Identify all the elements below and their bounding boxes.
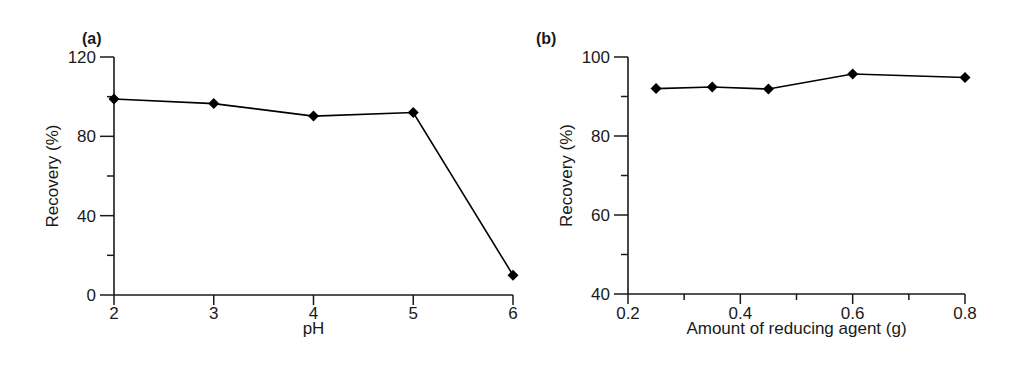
y-tick-label: 0 <box>87 286 96 305</box>
data-line <box>114 99 513 275</box>
chart-panel-b: (b)4060801000.20.40.60.8Amount of reduci… <box>536 30 977 338</box>
diamond-marker <box>707 82 718 93</box>
y-axis-title: Recovery (%) <box>43 125 62 228</box>
y-axis-title: Recovery (%) <box>557 124 576 227</box>
diamond-marker <box>208 98 219 109</box>
y-tick-label: 120 <box>68 48 96 67</box>
diamond-marker <box>651 83 662 94</box>
y-tick-label: 60 <box>591 206 610 225</box>
figure: (a)0408012023456pHRecovery (%)(b)4060801… <box>0 0 1009 375</box>
diamond-marker <box>308 111 319 122</box>
x-tick-label: 2 <box>109 304 118 323</box>
chart-panel-a: (a)0408012023456pHRecovery (%) <box>43 30 519 338</box>
diamond-marker <box>847 68 858 79</box>
diamond-marker <box>508 270 519 281</box>
panel-label: (b) <box>536 30 556 47</box>
x-axis-title: pH <box>303 319 325 338</box>
x-tick-label: 0.8 <box>953 304 977 323</box>
diamond-marker <box>109 94 120 105</box>
diamond-marker <box>763 83 774 94</box>
x-tick-label: 0.2 <box>616 304 640 323</box>
data-line <box>656 74 965 89</box>
x-tick-label: 3 <box>209 304 218 323</box>
y-tick-label: 40 <box>591 285 610 304</box>
y-tick-label: 80 <box>591 127 610 146</box>
diamond-marker <box>960 72 971 83</box>
panel-label: (a) <box>82 30 102 47</box>
x-axis-title: Amount of reducing agent (g) <box>686 319 906 338</box>
diamond-marker <box>408 107 419 118</box>
x-tick-label: 5 <box>409 304 418 323</box>
y-tick-label: 100 <box>582 48 610 67</box>
y-tick-label: 40 <box>77 207 96 226</box>
y-tick-label: 80 <box>77 127 96 146</box>
x-tick-label: 6 <box>508 304 517 323</box>
